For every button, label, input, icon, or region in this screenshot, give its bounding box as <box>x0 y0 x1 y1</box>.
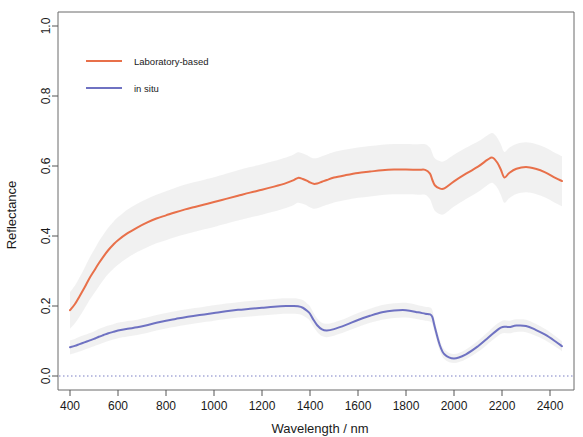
y-tick-label: 0.4 <box>39 227 53 244</box>
y-tick-label: 0.6 <box>39 157 53 174</box>
x-axis-title: Wavelength / nm <box>271 421 368 436</box>
y-tick-label: 0.8 <box>39 87 53 104</box>
x-tick-label: 1400 <box>297 399 324 413</box>
x-tick-label: 1600 <box>345 399 372 413</box>
x-tick-label: 1200 <box>249 399 276 413</box>
x-tick-label: 1000 <box>201 399 228 413</box>
x-tick-label: 400 <box>60 399 80 413</box>
y-tick-label: 0.0 <box>39 367 53 384</box>
legend-label-laboratory: Laboratory-based <box>134 56 208 67</box>
x-tick-label: 1800 <box>393 399 420 413</box>
x-tick-label: 2200 <box>489 399 516 413</box>
y-tick-label: 0.2 <box>39 297 53 314</box>
y-axis-title: Reflectance <box>4 181 19 250</box>
y-tick-label: 1.0 <box>39 17 53 34</box>
legend-label-in-situ: in situ <box>134 83 159 94</box>
chart-background <box>0 0 583 437</box>
x-tick-label: 800 <box>156 399 176 413</box>
reflectance-spectra-chart: 4006008001000120014001600180020002200240… <box>0 0 583 437</box>
x-tick-label: 2400 <box>537 399 564 413</box>
x-tick-label: 2000 <box>441 399 468 413</box>
x-tick-label: 600 <box>108 399 128 413</box>
